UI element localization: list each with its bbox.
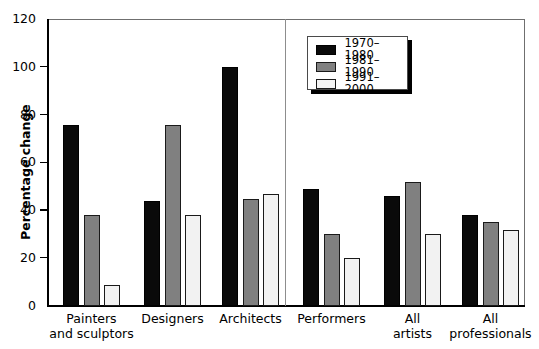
x-axis-label: All professionals <box>436 312 539 341</box>
bar <box>144 201 160 306</box>
bar <box>84 215 100 306</box>
legend-swatch <box>316 62 336 72</box>
legend-item: 1991–2000 <box>316 76 407 91</box>
bar <box>222 67 238 306</box>
bar <box>425 234 441 306</box>
bar <box>324 234 340 306</box>
bar <box>165 125 181 306</box>
bar <box>405 182 421 306</box>
bar <box>344 258 360 306</box>
bar <box>185 215 201 306</box>
bars-layer <box>0 0 539 306</box>
bar <box>263 194 279 306</box>
legend-swatch <box>316 45 336 55</box>
bar <box>104 285 120 306</box>
bar <box>384 196 400 306</box>
bar <box>462 215 478 306</box>
bar <box>483 222 499 306</box>
bar <box>243 199 259 306</box>
bar <box>303 189 319 306</box>
legend-swatch <box>316 79 336 89</box>
bar-chart: 120100806040200 Percentage change Painte… <box>0 0 539 349</box>
bar <box>503 230 519 306</box>
bar <box>63 125 79 306</box>
chart-legend: 1970–19801981–19901991–2000 <box>307 36 408 90</box>
legend-label: 1991–2000 <box>344 72 407 95</box>
